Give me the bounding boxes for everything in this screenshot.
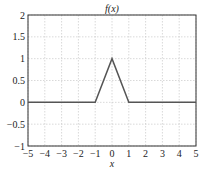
x-tick-label: −2 (73, 148, 84, 159)
x-tick-label: 5 (194, 148, 199, 159)
triangle-function-chart: −5−4−3−2−1012345 −1−0.500.511.52 f(x) x (0, 0, 200, 170)
x-axis-label: x (109, 158, 115, 169)
y-tick-label: 0 (20, 97, 25, 108)
x-tick-label: −3 (56, 148, 67, 159)
x-tick-label: 4 (177, 148, 182, 159)
y-tick-label: −0.5 (7, 119, 25, 130)
x-tick-label: 1 (126, 148, 131, 159)
y-tick-label: 0.5 (13, 75, 26, 86)
x-tick-label: −1 (90, 148, 101, 159)
x-tick-label: 3 (160, 148, 165, 159)
y-tick-label: −1 (14, 141, 25, 152)
chart-title: f(x) (105, 3, 120, 15)
y-tick-label: 2 (20, 10, 25, 21)
y-tick-label: 1.5 (13, 31, 26, 42)
y-tick-label: 1 (20, 53, 25, 64)
y-tick-labels: −1−0.500.511.52 (7, 10, 25, 152)
grid-lines (28, 15, 196, 146)
x-tick-label: −4 (39, 148, 50, 159)
x-tick-label: 2 (143, 148, 148, 159)
